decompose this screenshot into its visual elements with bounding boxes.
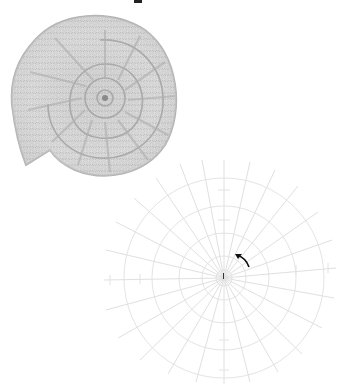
direction-arrow-icon — [232, 250, 252, 270]
crochet-stitch-chart — [100, 150, 341, 388]
start-marker — [223, 273, 224, 279]
